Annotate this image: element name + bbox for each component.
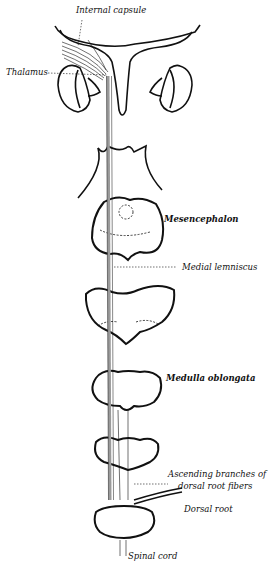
lower-medulla-section (95, 437, 158, 470)
medulla-section (92, 371, 161, 410)
label-dorsal-root: Dorsal root (184, 505, 233, 514)
spinal-cord-section (95, 488, 182, 538)
label-dorsal-root-fibers: dorsal root fibers (178, 482, 252, 491)
label-medulla-oblongata: Medulla oblongata (166, 374, 255, 383)
label-mesencephalon: Mesencephalon (164, 215, 238, 224)
mesencephalon-section (92, 197, 163, 260)
forebrain-section (55, 25, 200, 115)
midbrain-outline (78, 146, 162, 198)
label-ascending-branches: Ascending branches of (168, 470, 266, 479)
label-thalamus: Thalamus (6, 68, 48, 77)
label-spinal-cord: Spinal cord (128, 552, 177, 561)
pons-section (86, 286, 174, 344)
label-internal-capsule: Internal capsule (76, 6, 146, 15)
label-medial-lemniscus: Medial lemniscus (182, 263, 257, 272)
